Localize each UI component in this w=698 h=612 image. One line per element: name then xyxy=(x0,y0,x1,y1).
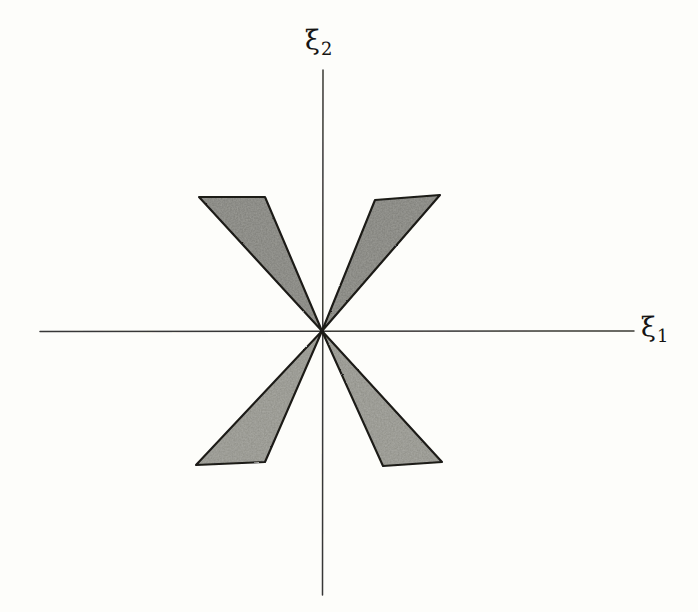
xi1-axis-label: ξ1 xyxy=(641,313,669,345)
xi1-subscript: 1 xyxy=(656,325,669,346)
xi1-symbol: ξ xyxy=(641,311,656,342)
xi2-axis-label: ξ2 xyxy=(305,26,333,58)
figure-canvas: ξ2 ξ1 xyxy=(0,0,698,612)
xi2-subscript: 2 xyxy=(320,38,333,59)
xi1-axis-line xyxy=(40,331,634,332)
cone-diagram-svg xyxy=(0,0,698,612)
xi2-symbol: ξ xyxy=(305,24,320,55)
paper-background xyxy=(0,0,698,612)
origin-point xyxy=(320,329,324,333)
